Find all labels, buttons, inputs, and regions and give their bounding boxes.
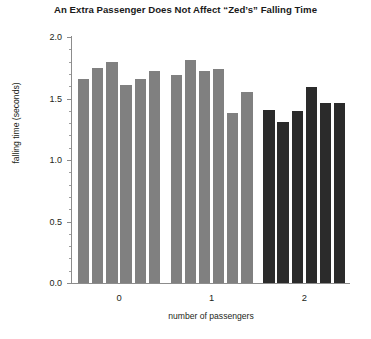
x-axis-title: number of passengers bbox=[72, 311, 350, 321]
bar bbox=[263, 110, 274, 283]
bar bbox=[78, 79, 89, 283]
bar bbox=[277, 122, 288, 283]
x-tick-label: 0 bbox=[116, 292, 121, 303]
bar bbox=[135, 79, 146, 283]
y-axis-title: falling time (seconds) bbox=[11, 43, 21, 203]
bar bbox=[199, 71, 210, 283]
y-tick-label: 0.0 bbox=[49, 278, 62, 288]
bar bbox=[149, 71, 160, 283]
x-tick-label: 1 bbox=[209, 292, 214, 303]
x-axis-line bbox=[71, 283, 350, 284]
x-tick-label: 2 bbox=[302, 292, 307, 303]
bar bbox=[106, 62, 117, 283]
bar bbox=[227, 113, 238, 283]
y-tick-label: 1.5 bbox=[49, 94, 62, 104]
bar bbox=[292, 111, 303, 283]
bar bbox=[213, 69, 224, 283]
y-tick-label: 1.0 bbox=[49, 155, 62, 165]
bar bbox=[306, 87, 317, 283]
bar bbox=[320, 103, 331, 283]
bar bbox=[185, 60, 196, 283]
y-tick-label: 2.0 bbox=[49, 32, 62, 42]
plot-area bbox=[72, 37, 350, 283]
bar bbox=[92, 68, 103, 283]
bar bbox=[241, 92, 252, 283]
bar bbox=[171, 75, 182, 283]
bar bbox=[120, 85, 131, 283]
y-tick-label: 0.5 bbox=[49, 217, 62, 227]
chart-figure: An Extra Passenger Does Not Affect “Zed’… bbox=[0, 0, 371, 339]
bar bbox=[334, 103, 345, 283]
